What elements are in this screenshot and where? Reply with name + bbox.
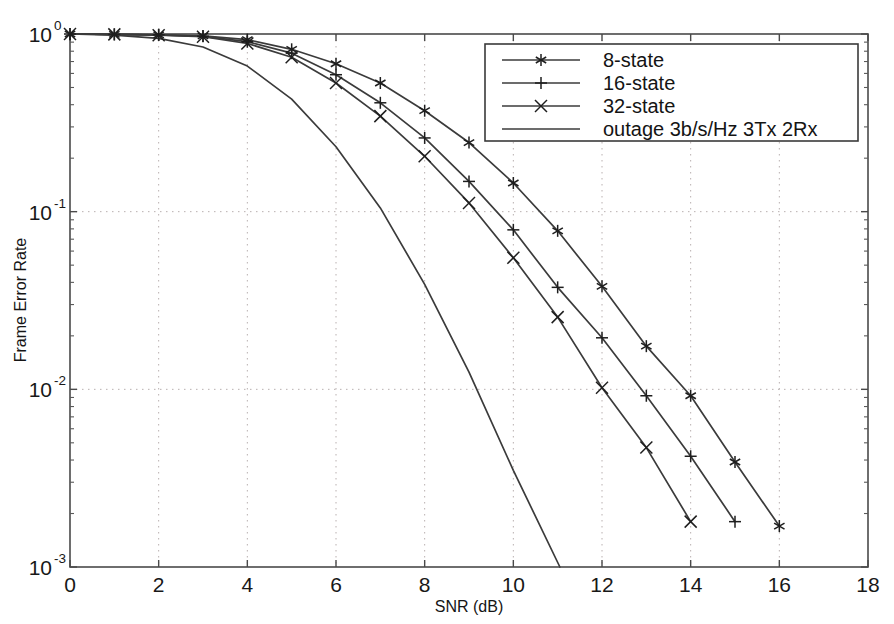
x-tick-labels: 024681012141618: [64, 573, 880, 596]
x-tick-label: 16: [768, 573, 791, 596]
x-tick-label: 6: [330, 573, 342, 596]
data-point-marker-plus: [685, 450, 697, 462]
data-point-marker-asterisk: [419, 105, 429, 117]
data-point-marker-cross: [463, 197, 475, 209]
frame-error-rate-chart: 024681012141618 10010-110-210-3 SNR (dB)…: [0, 0, 894, 624]
x-tick-label: 0: [64, 573, 76, 596]
y-tick-label: 100: [29, 18, 62, 46]
y-tick-mantissa: 10: [29, 378, 52, 401]
x-tick-label: 2: [153, 573, 165, 596]
y-axis-title: Frame Error Rate: [12, 238, 29, 363]
data-point-marker-cross: [685, 516, 697, 528]
data-point-marker-asterisk: [375, 77, 385, 89]
data-point-marker-cross: [507, 252, 519, 264]
data-point-marker-plus: [729, 516, 741, 528]
x-tick-label: 4: [241, 573, 253, 596]
y-tick-mantissa: 10: [29, 23, 52, 46]
data-point-marker-cross: [552, 311, 564, 323]
y-tick-label: 10-1: [29, 196, 66, 224]
x-tick-label: 14: [679, 573, 703, 596]
y-tick-exponent: -2: [54, 373, 66, 388]
y-tick-labels: 10010-110-210-3: [29, 18, 66, 579]
data-point-marker-cross: [596, 382, 608, 394]
x-tick-label: 18: [856, 573, 879, 596]
x-tick-label: 10: [502, 573, 525, 596]
legend-label-8-state: 8-state: [603, 49, 664, 71]
legend: 8-state16-state32-stateoutage 3b/s/Hz 3T…: [485, 44, 858, 141]
y-tick-label: 10-2: [29, 373, 66, 401]
figure-container: 024681012141618 10010-110-210-3 SNR (dB)…: [0, 0, 894, 624]
legend-label-16-state: 16-state: [603, 72, 675, 94]
y-tick-mantissa: 10: [29, 201, 52, 224]
data-point-marker-asterisk: [331, 58, 341, 70]
y-tick-exponent: 0: [54, 18, 62, 33]
data-point-marker-cross: [640, 442, 652, 454]
legend-label-outage-3b-s-hz-3tx-2rx: outage 3b/s/Hz 3Tx 2Rx: [603, 118, 818, 140]
y-tick-label: 10-3: [29, 551, 66, 579]
y-tick-exponent: -3: [54, 551, 66, 566]
data-point-marker-cross: [374, 110, 386, 122]
x-tick-label: 12: [590, 573, 613, 596]
y-tick-exponent: -1: [54, 196, 66, 211]
y-tick-mantissa: 10: [29, 556, 52, 579]
x-axis-title: SNR (dB): [435, 598, 503, 615]
legend-label-32-state: 32-state: [603, 95, 675, 117]
x-tick-label: 8: [419, 573, 431, 596]
